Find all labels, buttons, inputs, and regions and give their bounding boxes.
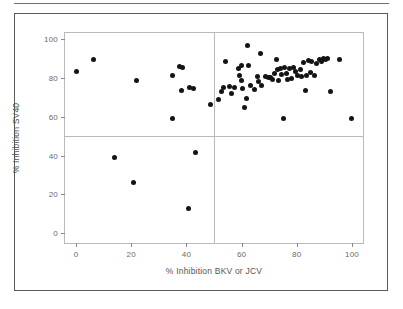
x-axis-tick-label-60: 60	[237, 250, 246, 259]
scatter-point	[180, 65, 185, 70]
scatter-point	[193, 150, 198, 155]
scatter-point	[325, 56, 330, 61]
x-axis-tick-80	[297, 243, 298, 247]
scatter-point	[245, 43, 250, 48]
scatter-point	[328, 89, 333, 94]
y-axis-tick-label-60: 60	[49, 112, 58, 121]
y-axis-tick-40	[61, 156, 65, 157]
x-axis-tick-label-40: 40	[182, 250, 191, 259]
y-axis-tick-label-40: 40	[49, 151, 58, 160]
scatter-point	[91, 57, 96, 62]
x-axis-tick-100	[352, 243, 353, 247]
y-axis-tick-label-0: 0	[53, 229, 58, 238]
scatter-point	[74, 69, 79, 74]
page-top-rule	[14, 3, 389, 4]
scatter-point	[337, 57, 342, 62]
scatter-point	[219, 89, 224, 94]
scatter-point	[170, 116, 175, 121]
scatter-point	[191, 86, 196, 91]
x-axis-tick-label-20: 20	[127, 250, 136, 259]
scatter-point	[223, 59, 228, 64]
figure-root: 020406080100020406080100 % Inhibition BK…	[0, 0, 403, 309]
scatter-point	[281, 116, 286, 121]
y-axis-tick-80	[61, 78, 65, 79]
scatter-point	[298, 67, 303, 72]
scatter-point	[239, 63, 244, 68]
scatter-point	[259, 83, 264, 88]
y-axis-tick-label-80: 80	[49, 73, 58, 82]
y-axis-tick-label-100: 100	[44, 34, 58, 43]
x-axis-tick-label-80: 80	[292, 250, 301, 259]
scatter-point	[258, 51, 263, 56]
x-axis-tick-0	[76, 243, 77, 247]
y-axis-tick-100	[61, 39, 65, 40]
y-axis-tick-label-20: 20	[49, 190, 58, 199]
scatter-point	[186, 206, 191, 211]
x-axis-title: % Inhibition BKV or JCV	[64, 266, 364, 276]
scatter-point	[270, 77, 275, 82]
scatter-point	[252, 87, 257, 92]
scatter-point	[229, 91, 234, 96]
scatter-point	[349, 116, 354, 121]
x-axis-tick-40	[186, 243, 187, 247]
scatter-point	[240, 86, 245, 91]
y-axis-tick-60	[61, 117, 65, 118]
scatter-point	[232, 85, 237, 90]
y-axis-tick-0	[61, 233, 65, 234]
reference-line-vertical-50	[214, 33, 215, 243]
scatter-point	[246, 63, 251, 68]
scatter-point	[112, 155, 117, 160]
x-axis-tick-60	[242, 243, 243, 247]
x-axis-tick-label-0: 0	[74, 250, 79, 259]
scatter-point	[170, 73, 175, 78]
scatter-point	[244, 96, 249, 101]
scatter-point	[221, 85, 226, 90]
scatter-point	[282, 65, 287, 70]
scatter-point	[208, 102, 213, 107]
scatter-point	[289, 76, 294, 81]
scatter-point	[242, 105, 247, 110]
y-axis-title: % Inhibition SV40	[11, 103, 21, 174]
scatter-point	[134, 78, 139, 83]
scatter-point	[179, 88, 184, 93]
scatter-point	[274, 57, 279, 62]
scatter-point	[303, 88, 308, 93]
scatter-point	[227, 84, 232, 89]
scatter-point	[216, 97, 221, 102]
y-axis-tick-20	[61, 194, 65, 195]
scatter-point	[276, 78, 281, 83]
scatter-point	[312, 73, 317, 78]
x-axis-tick-label-100: 100	[345, 250, 359, 259]
scatter-point	[131, 180, 136, 185]
scatter-plot-area: 020406080100020406080100	[64, 32, 364, 244]
x-axis-tick-20	[131, 243, 132, 247]
scatter-point	[239, 78, 244, 83]
scatter-point	[284, 71, 289, 76]
